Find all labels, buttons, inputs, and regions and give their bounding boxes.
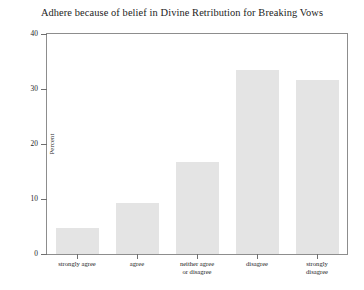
y-tick-label: 0 <box>17 250 38 257</box>
bar <box>116 203 159 254</box>
x-tick-label-line: or disagree <box>157 268 237 276</box>
x-tick-mark <box>257 254 258 259</box>
x-tick-mark <box>197 254 198 259</box>
bar <box>176 162 219 254</box>
x-tick-mark <box>77 254 78 259</box>
y-tick-mark <box>41 144 47 145</box>
x-tick-mark <box>137 254 138 259</box>
y-axis-label: Percent <box>48 104 55 184</box>
plot-area: Percent 010203040 strongly agreeagreenei… <box>46 33 348 255</box>
y-tick-mark <box>41 89 47 90</box>
x-tick-label-line: strongly <box>277 260 357 268</box>
y-tick-mark <box>41 199 47 200</box>
y-tick-mark <box>41 254 47 255</box>
y-tick-label: 10 <box>17 195 38 202</box>
bar <box>236 70 279 254</box>
x-tick-label: stronglydisagree <box>277 260 357 276</box>
x-tick-mark <box>317 254 318 259</box>
bar-chart: Adhere because of belief in Divine Retri… <box>0 0 364 290</box>
chart-title: Adhere because of belief in Divine Retri… <box>0 7 364 18</box>
y-tick-label: 30 <box>17 85 38 92</box>
y-tick-label: 20 <box>17 140 38 147</box>
x-tick-label-line: disagree <box>277 268 357 276</box>
y-tick-label: 40 <box>17 30 38 37</box>
bar <box>56 228 99 254</box>
y-tick-mark <box>41 34 47 35</box>
bar <box>296 80 339 254</box>
